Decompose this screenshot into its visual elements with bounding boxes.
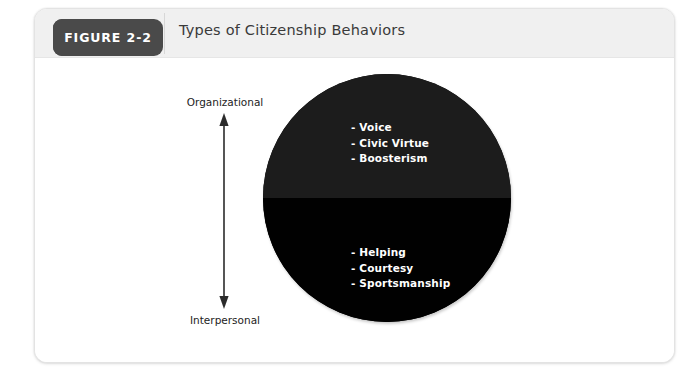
figure-card: FIGURE 2-2 Types of Citizenship Behavior… — [34, 8, 675, 363]
figure-number-tab: FIGURE 2-2 — [53, 19, 163, 56]
figure-number-label: FIGURE 2-2 — [53, 19, 163, 56]
figure-title: Types of Citizenship Behaviors — [179, 22, 405, 38]
figure-body: Organizational Interpersonal - Voice - C… — [35, 58, 674, 363]
list-item: - Civic Virtue — [351, 136, 429, 152]
figure-header: FIGURE 2-2 Types of Citizenship Behavior… — [35, 9, 674, 58]
list-item: - Helping — [351, 245, 450, 261]
list-item: - Boosterism — [351, 151, 429, 167]
organizational-behaviors-list: - Voice - Civic Virtue - Boosterism — [351, 120, 429, 167]
list-item: - Sportsmanship — [351, 276, 450, 292]
double-headed-vertical-arrow-icon — [209, 113, 239, 309]
behaviors-circle: - Voice - Civic Virtue - Boosterism - He… — [263, 74, 511, 322]
list-item: - Courtesy — [351, 261, 450, 277]
list-item: - Voice — [351, 120, 429, 136]
interpersonal-behaviors-list: - Helping - Courtesy - Sportsmanship — [351, 245, 450, 292]
header-divider — [164, 13, 165, 54]
